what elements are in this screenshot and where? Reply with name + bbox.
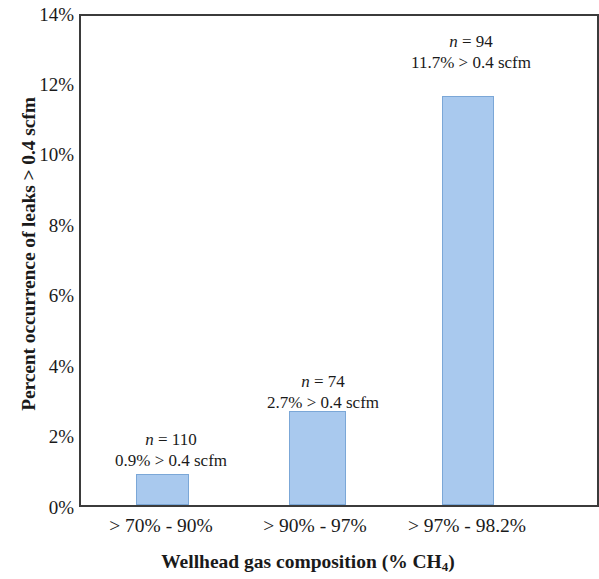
bar-count-90-97: n = 74 (253, 372, 393, 393)
bar-annotation-90-97: n = 74 2.7% > 0.4 scfm (253, 372, 393, 413)
n-value-2: = 94 (458, 32, 493, 51)
n-value-1: = 74 (310, 372, 345, 391)
y-tick-label-2: 2% (12, 427, 74, 446)
bar-value-label-70-90: 0.9% > 0.4 scfm (101, 451, 241, 472)
x-tick-label-90-97: > 90% - 97% (240, 515, 390, 537)
bar-70-90[interactable] (136, 474, 189, 505)
bar-count-97-98-2: n = 94 (396, 32, 546, 53)
y-tick-label-12: 12% (12, 75, 74, 94)
y-axis-tick-labels: 14% 12% 10% 8% 6% 4% 2% 0% (8, 0, 74, 579)
y-tick-label-10: 10% (12, 145, 74, 164)
x-axis-title: Wellhead gas composition (% CH4) (79, 551, 537, 575)
n-symbol-0: n (145, 430, 154, 449)
y-tick-label-0: 0% (12, 498, 74, 517)
n-symbol-2: n (449, 32, 458, 51)
bar-annotation-70-90: n = 110 0.9% > 0.4 scfm (101, 430, 241, 471)
bar-97-98-2[interactable] (442, 96, 494, 505)
x-tick-label-70-90: > 70% - 90% (86, 515, 236, 537)
bar-annotation-97-98-2: n = 94 11.7% > 0.4 scfm (396, 32, 546, 73)
bar-value-label-97-98-2: 11.7% > 0.4 scfm (396, 53, 546, 74)
n-symbol-1: n (301, 372, 310, 391)
y-tick-label-14: 14% (12, 5, 74, 24)
x-axis-title-tail: ) (448, 551, 455, 572)
x-tick-label-97-98-2: > 97% - 98.2% (387, 515, 547, 537)
bar-count-70-90: n = 110 (101, 430, 241, 451)
n-value-0: = 110 (154, 430, 197, 449)
bar-value-label-90-97: 2.7% > 0.4 scfm (253, 393, 393, 414)
y-tick-label-8: 8% (12, 216, 74, 235)
x-axis-title-main: Wellhead gas composition (% CH (161, 551, 442, 572)
y-tick-label-4: 4% (12, 357, 74, 376)
bar-90-97[interactable] (289, 411, 346, 505)
y-tick-label-6: 6% (12, 286, 74, 305)
